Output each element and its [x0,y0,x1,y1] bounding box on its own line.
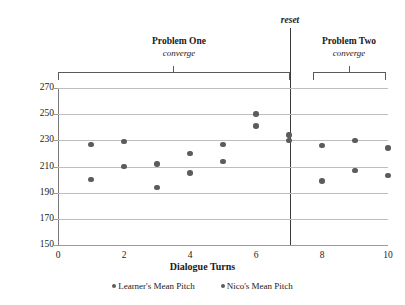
y-tick-label: 190 [20,188,54,198]
gridline [58,114,388,115]
data-point [154,161,160,167]
data-point [352,168,358,174]
gridline [58,219,388,220]
data-point [88,177,94,183]
problem-one-bracket [58,72,290,80]
data-point [253,123,259,129]
data-point [220,159,226,165]
legend-item: Nico's Mean Pitch [221,281,293,291]
legend-item: Learner's Mean Pitch [112,281,195,291]
x-tick-label: 2 [112,250,136,260]
y-tick-mark [54,193,58,194]
data-point [385,145,391,151]
data-point [121,139,127,145]
y-tick-mark [54,88,58,89]
gridline [58,167,388,168]
x-axis-title: Dialogue Turns [0,261,405,272]
problem-two-label: Problem Two converge [294,36,404,59]
x-tick-label: 10 [376,250,400,260]
chart-legend: Learner's Mean PitchNico's Mean Pitch [0,281,405,291]
y-tick-label: 210 [20,162,54,172]
data-point [220,142,226,148]
gridline [58,245,388,246]
pitch-scatter-chart: reset Problem One converge Problem Two c… [0,0,405,305]
x-tick-label: 8 [310,250,334,260]
legend-marker-icon [221,284,225,288]
y-tick-mark [54,245,58,246]
y-tick-label: 170 [20,214,54,224]
legend-marker-icon [112,284,116,288]
problem-two-title: Problem Two [322,36,376,46]
x-tick-label: 4 [178,250,202,260]
y-tick-label: 270 [20,83,54,93]
y-tick-label: 150 [20,240,54,250]
problem-one-subtitle: converge [124,48,234,60]
data-point [319,143,325,149]
data-point [154,185,160,191]
data-point [187,151,193,157]
x-tick-label: 6 [244,250,268,260]
gridline [58,193,388,194]
y-tick-mark [54,219,58,220]
data-point [352,138,358,144]
plot-area [58,88,388,245]
data-point [187,170,193,176]
problem-one-label: Problem One converge [124,36,234,59]
y-tick-mark [54,167,58,168]
x-tick-label: 0 [46,250,70,260]
reset-annotation-label: reset [260,15,320,25]
data-point [253,111,259,117]
y-tick-label: 250 [20,109,54,119]
problem-one-title: Problem One [152,36,206,46]
gridline [58,88,388,89]
legend-label: Nico's Mean Pitch [227,281,293,291]
problem-two-bracket [313,72,386,80]
data-point [121,164,127,170]
data-point [385,173,391,179]
y-tick-mark [54,114,58,115]
y-tick-mark [54,140,58,141]
data-point [319,178,325,184]
y-tick-label: 230 [20,135,54,145]
data-point [88,142,94,148]
data-point [286,138,292,144]
problem-two-subtitle: converge [294,48,404,60]
legend-label: Learner's Mean Pitch [118,281,195,291]
